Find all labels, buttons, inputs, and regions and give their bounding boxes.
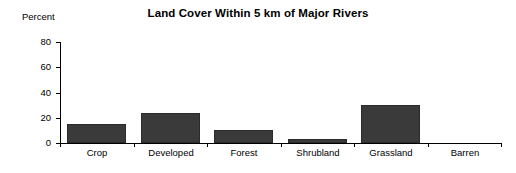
plot-area: 020406080	[60, 36, 501, 148]
bar	[67, 124, 126, 143]
y-axis-label: Percent	[22, 11, 55, 22]
bar	[361, 105, 420, 143]
y-axis-tick-label: 0	[46, 137, 51, 148]
x-axis-category-label: Barren	[428, 147, 502, 158]
x-axis-category-label: Grassland	[354, 147, 428, 158]
x-axis-category-label: Forest	[207, 147, 281, 158]
chart-title: Land Cover Within 5 km of Major Rivers	[0, 7, 516, 19]
y-axis-tick-label: 60	[40, 61, 51, 72]
x-axis-labels: CropDevelopedForestShrublandGrasslandBar…	[60, 147, 501, 163]
x-axis-category-label: Crop	[60, 147, 134, 158]
y-axis-tick-label: 20	[40, 112, 51, 123]
bar	[214, 130, 273, 143]
y-axis-tick-label: 80	[40, 36, 51, 47]
bar-series	[60, 36, 501, 143]
bar-chart: Land Cover Within 5 km of Major Rivers P…	[0, 0, 516, 173]
bar	[288, 139, 347, 143]
x-axis-category-label: Developed	[134, 147, 208, 158]
y-axis-tick-label: 40	[40, 87, 51, 98]
x-axis-category-label: Shrubland	[281, 147, 355, 158]
bar	[141, 113, 200, 143]
